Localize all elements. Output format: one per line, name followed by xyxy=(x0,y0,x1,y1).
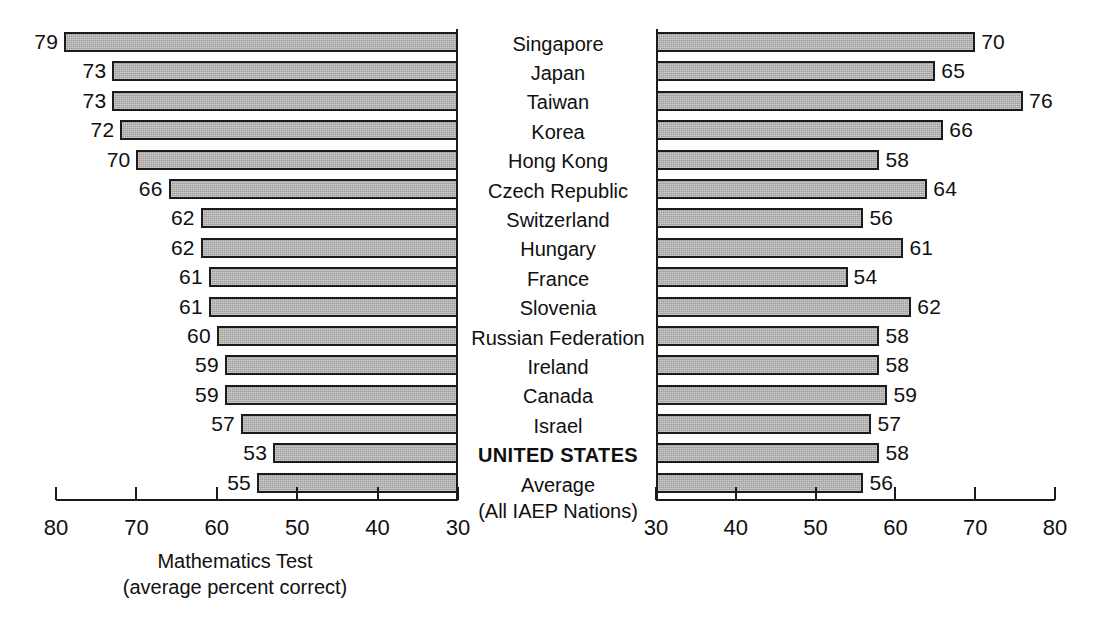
country-label: Russian Federation xyxy=(471,327,644,349)
bar-row: 59 xyxy=(0,382,470,411)
bar xyxy=(209,267,458,287)
mathematics-axis-caption: Mathematics Test (average percent correc… xyxy=(0,548,470,600)
country-label: Israel xyxy=(534,415,583,437)
axis-tick xyxy=(457,487,459,500)
axis-tick-label: 40 xyxy=(724,515,748,541)
bar-row: 57 xyxy=(640,411,1097,440)
bar-value-label: 58 xyxy=(885,323,909,349)
country-row: Hungary xyxy=(466,235,650,264)
science-value-axis: 304050607080 xyxy=(656,499,1055,500)
bar xyxy=(656,297,911,317)
bar-value-label: 65 xyxy=(941,58,965,84)
bar xyxy=(656,61,935,81)
bar-value-label: 60 xyxy=(187,323,211,349)
bar-row: 62 xyxy=(0,205,470,234)
axis-tick xyxy=(55,487,57,500)
bar-value-label: 61 xyxy=(909,235,933,261)
bar xyxy=(656,91,1023,111)
science-bar-rows: 70657666586456615462585859575856 xyxy=(640,29,1097,499)
bar-row: 79 xyxy=(0,29,470,58)
country-row: Czech Republic xyxy=(466,176,650,205)
bar xyxy=(656,179,927,199)
bar xyxy=(112,61,458,81)
bar-value-label: 58 xyxy=(885,352,909,378)
science-panel: 70657666586456615462585859575856 3040506… xyxy=(640,0,1097,629)
axis-tick xyxy=(216,487,218,500)
axis-tick xyxy=(377,487,379,500)
bar xyxy=(169,179,458,199)
bar-value-label: 76 xyxy=(1029,88,1053,114)
country-label: Czech Republic xyxy=(488,180,628,202)
bar-row: 59 xyxy=(640,382,1097,411)
bar-value-label: 61 xyxy=(179,294,203,320)
country-row: Russian Federation xyxy=(466,323,650,352)
bar xyxy=(136,150,458,170)
bar-value-label: 58 xyxy=(885,147,909,173)
axis-tick xyxy=(296,487,298,500)
bar-value-label: 55 xyxy=(227,470,251,496)
country-label: France xyxy=(527,268,589,290)
bar-value-label: 61 xyxy=(179,264,203,290)
bar-row: 70 xyxy=(0,147,470,176)
bar-row: 70 xyxy=(640,29,1097,58)
bar-row: 58 xyxy=(640,440,1097,469)
bar-value-label: 56 xyxy=(869,205,893,231)
chart-figure: 79737372706662626161605959575355 8070605… xyxy=(0,0,1097,629)
bar-row: 59 xyxy=(0,352,470,381)
bar-row: 66 xyxy=(640,117,1097,146)
bar-value-label: 56 xyxy=(869,470,893,496)
bar-value-label: 57 xyxy=(211,411,235,437)
bar-row: 64 xyxy=(640,176,1097,205)
mathematics-bar-rows: 79737372706662626161605959575355 xyxy=(0,29,470,499)
bar xyxy=(225,385,458,405)
bar xyxy=(217,326,458,346)
country-row: France xyxy=(466,264,650,293)
bar-value-label: 66 xyxy=(949,117,973,143)
country-row: Ireland xyxy=(466,352,650,381)
axis-tick-label: 30 xyxy=(644,515,668,541)
axis-tick xyxy=(974,487,976,500)
country-row: Korea xyxy=(466,117,650,146)
bar-value-label: 59 xyxy=(195,352,219,378)
country-row: Taiwan xyxy=(466,88,650,117)
bar-value-label: 62 xyxy=(171,235,195,261)
bar xyxy=(656,385,887,405)
axis-tick-label: 60 xyxy=(883,515,907,541)
country-row: Slovenia xyxy=(466,294,650,323)
axis-tick xyxy=(894,487,896,500)
bar-value-label: 53 xyxy=(243,440,267,466)
bar-value-label: 58 xyxy=(885,440,909,466)
bar-value-label: 62 xyxy=(171,205,195,231)
bar-value-label: 72 xyxy=(91,117,115,143)
bar xyxy=(201,208,458,228)
bar-value-label: 59 xyxy=(195,382,219,408)
mathematics-caption-line2: (average percent correct) xyxy=(0,574,470,600)
mathematics-panel: 79737372706662626161605959575355 8070605… xyxy=(0,0,470,629)
country-row: Canada xyxy=(466,382,650,411)
bar-value-label: 70 xyxy=(981,29,1005,55)
bar-value-label: 66 xyxy=(139,176,163,202)
bar-value-label: 70 xyxy=(107,147,131,173)
bar-value-label: 73 xyxy=(83,58,107,84)
country-row: Japan xyxy=(466,58,650,87)
axis-tick-label: 50 xyxy=(285,515,309,541)
axis-tick xyxy=(655,487,657,500)
bar-row: 76 xyxy=(640,88,1097,117)
axis-tick-label: 50 xyxy=(803,515,827,541)
axis-tick xyxy=(735,487,737,500)
axis-tick xyxy=(815,487,817,500)
mathematics-caption-line1: Mathematics Test xyxy=(0,548,470,574)
bar-value-label: 64 xyxy=(933,176,957,202)
country-row: UNITED STATES xyxy=(466,440,650,469)
country-label: Korea xyxy=(531,121,584,143)
bar-row: 57 xyxy=(0,411,470,440)
bar-row: 58 xyxy=(640,352,1097,381)
bar xyxy=(112,91,458,111)
axis-tick-label: 70 xyxy=(124,515,148,541)
bar-row: 62 xyxy=(640,294,1097,323)
bar-row: 58 xyxy=(640,323,1097,352)
country-label: Hong Kong xyxy=(508,150,608,172)
country-label: Ireland xyxy=(527,356,588,378)
bar xyxy=(656,238,903,258)
mathematics-axis-line xyxy=(56,499,458,501)
